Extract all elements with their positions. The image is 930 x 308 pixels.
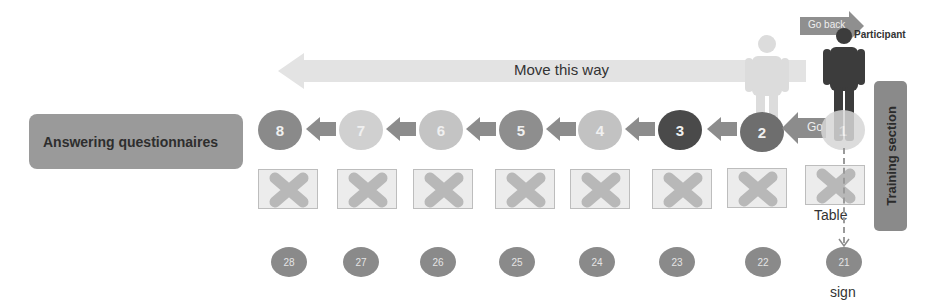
dashed-path-line xyxy=(843,148,845,243)
table-8 xyxy=(258,169,318,209)
x-mark-icon xyxy=(496,170,556,210)
sign-21: 21 xyxy=(826,247,862,277)
sign-26: 26 xyxy=(420,247,456,277)
arrow-left-icon xyxy=(707,117,737,141)
sign-23: 23 xyxy=(659,247,695,277)
move-direction-label: Move this way xyxy=(514,61,609,78)
sign-27: 27 xyxy=(343,247,379,277)
answering-questionnaires-box: Answering questionnaires xyxy=(29,114,243,169)
station-3: 3 xyxy=(658,110,702,150)
station-5: 5 xyxy=(499,110,543,150)
sign-number: 25 xyxy=(511,257,522,268)
sign-24: 24 xyxy=(579,247,615,277)
station-1: 1 xyxy=(821,110,865,150)
station-2: 2 xyxy=(740,112,784,152)
table-2 xyxy=(727,168,787,208)
sign-label: sign xyxy=(830,284,856,300)
table-7 xyxy=(337,169,397,209)
sign-number: 24 xyxy=(591,257,602,268)
arrow-left-icon xyxy=(466,117,496,141)
answering-questionnaires-label: Answering questionnaires xyxy=(43,134,218,150)
station-number: 7 xyxy=(357,122,365,139)
x-mark-icon xyxy=(728,169,788,209)
station-7: 7 xyxy=(339,110,383,150)
sign-25: 25 xyxy=(499,247,535,277)
sign-number: 22 xyxy=(757,257,768,268)
table-6 xyxy=(413,169,473,209)
x-mark-icon xyxy=(653,170,713,210)
station-number: 1 xyxy=(839,122,847,139)
arrow-left-icon xyxy=(386,117,416,141)
x-mark-icon xyxy=(806,166,866,206)
station-4: 4 xyxy=(578,110,622,150)
table-1 xyxy=(805,165,865,205)
x-mark-icon xyxy=(571,170,631,210)
arrow-left-icon xyxy=(278,53,304,89)
station-number: 5 xyxy=(517,122,525,139)
station-6: 6 xyxy=(419,110,463,150)
sign-number: 26 xyxy=(432,257,443,268)
x-mark-icon xyxy=(338,170,398,210)
table-3 xyxy=(652,169,712,209)
arrow-left-icon xyxy=(306,117,336,141)
arrow-left-icon xyxy=(546,117,576,141)
station-number: 6 xyxy=(437,122,445,139)
station-number: 3 xyxy=(676,122,684,139)
station-number: 8 xyxy=(276,122,284,139)
sign-number: 23 xyxy=(671,257,682,268)
sign-22: 22 xyxy=(745,247,781,277)
sign-number: 27 xyxy=(355,257,366,268)
sign-number: 21 xyxy=(838,257,849,268)
arrow-left-icon xyxy=(625,117,655,141)
x-mark-icon xyxy=(259,170,319,210)
table-4 xyxy=(570,169,630,209)
table-5 xyxy=(495,169,555,209)
training-section-box: Training section xyxy=(874,81,907,231)
station-8: 8 xyxy=(258,110,302,150)
sign-28: 28 xyxy=(271,247,307,277)
station-number: 2 xyxy=(758,124,766,141)
station-number: 4 xyxy=(596,122,604,139)
x-mark-icon xyxy=(414,170,474,210)
go-arrow: Go xyxy=(782,112,826,144)
move-direction-arrow: Move this way xyxy=(278,56,806,86)
sign-number: 28 xyxy=(283,257,294,268)
participant-label: Participant xyxy=(854,29,906,40)
training-section-label: Training section xyxy=(883,106,898,206)
